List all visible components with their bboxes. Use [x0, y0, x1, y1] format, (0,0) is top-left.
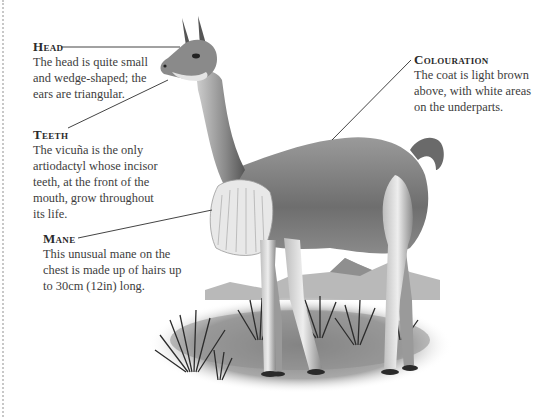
leader-line-colouration: [332, 60, 411, 140]
label-mane-body: This unusual mane on the chest is made u…: [43, 246, 181, 294]
label-mane: Mane This unusual mane on the chest is m…: [43, 231, 181, 294]
label-teeth: Teeth The vicuña is the only artiodactyl…: [33, 127, 158, 222]
label-head-body: The head is quite small and wedge-shaped…: [33, 54, 148, 102]
label-teeth-body: The vicuña is the only artiodactyl whose…: [33, 142, 158, 222]
vicuna-neck: [196, 70, 245, 195]
label-head-title: Head: [33, 39, 148, 54]
label-colouration-title: Colouration: [414, 52, 531, 67]
label-mane-title: Mane: [43, 231, 181, 246]
vicuna-head: [161, 16, 218, 81]
label-teeth-title: Teeth: [33, 127, 158, 142]
label-colouration: Colouration The coat is light brown abov…: [414, 52, 531, 115]
label-colouration-body: The coat is light brown above, with whit…: [414, 67, 531, 115]
label-head: Head The head is quite small and wedge-s…: [33, 39, 148, 102]
